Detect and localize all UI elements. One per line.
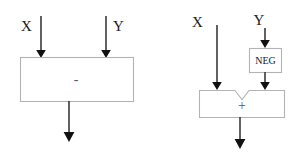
negate-block-label: NEG bbox=[255, 55, 276, 66]
input-label-y-right: Y bbox=[254, 12, 265, 28]
input-wire-x-right bbox=[212, 25, 222, 90]
figure-canvas: X Y - X bbox=[0, 0, 303, 159]
operator-minus: - bbox=[74, 72, 79, 87]
adder-with-negate-diagram: X Y NEG + bbox=[192, 12, 285, 149]
input-label-x-left: X bbox=[21, 18, 32, 34]
operator-plus: + bbox=[238, 98, 246, 113]
input-wire-y-left bbox=[101, 16, 111, 58]
output-wire-left bbox=[64, 101, 75, 142]
input-wire-x-left bbox=[36, 16, 46, 58]
subtractor-diagram: X Y - bbox=[21, 16, 134, 142]
input-wire-y-right bbox=[260, 28, 270, 48]
output-wire-right bbox=[235, 117, 246, 149]
input-label-x-right: X bbox=[192, 14, 203, 30]
block-diagram-svg: X Y - X bbox=[0, 0, 303, 159]
input-label-y-left: Y bbox=[113, 18, 124, 34]
negate-output-wire bbox=[260, 72, 270, 90]
